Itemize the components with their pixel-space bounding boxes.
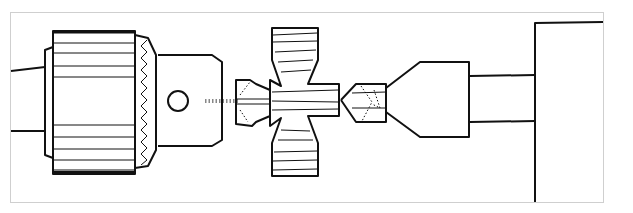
tailstock bbox=[470, 22, 603, 202]
spindle bbox=[11, 67, 45, 131]
lathe-diagram bbox=[0, 0, 633, 213]
workpiece bbox=[270, 28, 339, 176]
drive-centre bbox=[236, 80, 270, 126]
live-centre bbox=[341, 62, 469, 137]
drill-chuck bbox=[45, 31, 240, 174]
